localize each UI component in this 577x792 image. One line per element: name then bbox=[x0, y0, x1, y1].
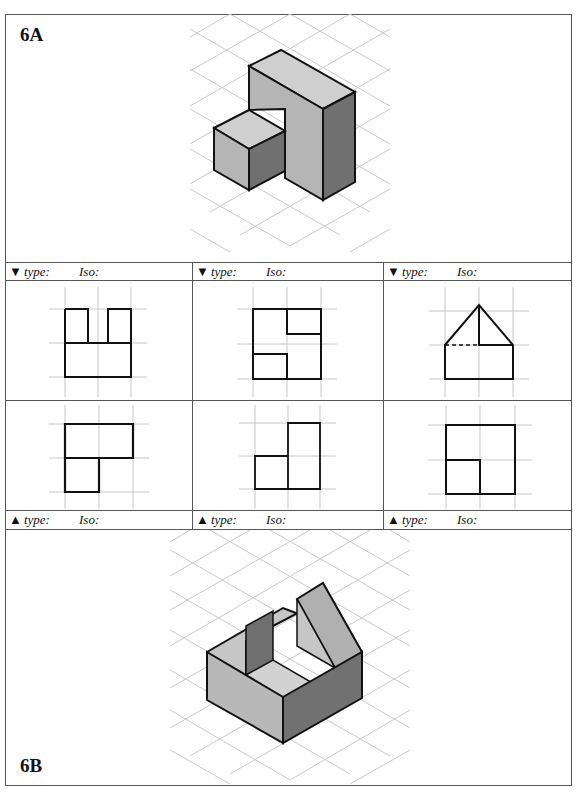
iso-label: Iso: bbox=[457, 512, 477, 528]
view-header-bottom-1: ▲ type: Iso: bbox=[9, 511, 50, 529]
orthographic-view-top-2 bbox=[193, 281, 383, 400]
isometric-drawing-6b bbox=[160, 530, 422, 786]
iso-label: Iso: bbox=[457, 264, 477, 280]
orthographic-view-top-1 bbox=[5, 281, 192, 400]
down-arrow-icon: ▼ bbox=[196, 264, 209, 280]
panel-label-6a: 6A bbox=[20, 24, 43, 46]
divider-top-header bbox=[5, 262, 572, 263]
down-arrow-icon: ▼ bbox=[387, 264, 400, 280]
panel-label-6b: 6B bbox=[20, 755, 42, 777]
view-header-top-1: ▼ type: Iso: bbox=[9, 263, 50, 281]
view-header-bottom-2: ▲ type: Iso: bbox=[196, 511, 237, 529]
isometric-drawing-6a bbox=[170, 14, 410, 260]
orthographic-view-bottom-1 bbox=[5, 401, 192, 510]
view-header-top-3: ▼ type: Iso: bbox=[387, 263, 428, 281]
up-arrow-icon: ▲ bbox=[196, 512, 209, 528]
iso-label: Iso: bbox=[266, 264, 286, 280]
type-label: type: bbox=[24, 264, 50, 280]
iso-label: Iso: bbox=[79, 512, 99, 528]
up-arrow-icon: ▲ bbox=[387, 512, 400, 528]
view-header-bottom-3: ▲ type: Iso: bbox=[387, 511, 428, 529]
up-arrow-icon: ▲ bbox=[9, 512, 22, 528]
orthographic-view-bottom-2 bbox=[193, 401, 383, 510]
orthographic-view-bottom-3 bbox=[384, 401, 572, 510]
type-label: type: bbox=[402, 264, 428, 280]
view-header-top-2: ▼ type: Iso: bbox=[196, 263, 237, 281]
type-label: type: bbox=[211, 264, 237, 280]
type-label: type: bbox=[211, 512, 237, 528]
iso-label: Iso: bbox=[266, 512, 286, 528]
down-arrow-icon: ▼ bbox=[9, 264, 22, 280]
tall-block-side-face bbox=[323, 92, 355, 200]
divider-views-footer bbox=[5, 510, 572, 511]
front-right-face bbox=[283, 652, 362, 743]
orthographic-view-top-3 bbox=[384, 281, 572, 400]
iso-label: Iso: bbox=[79, 264, 99, 280]
type-label: type: bbox=[402, 512, 428, 528]
type-label: type: bbox=[24, 512, 50, 528]
